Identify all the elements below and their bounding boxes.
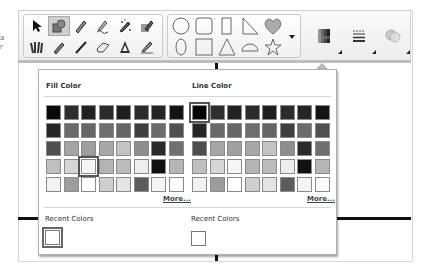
marker-pen-tool[interactable] <box>136 37 158 57</box>
fill-color-swatch[interactable] <box>46 177 61 192</box>
fill-color-swatch[interactable] <box>169 159 184 174</box>
fill-color-swatch[interactable] <box>46 159 61 174</box>
line-color-swatch[interactable] <box>245 159 260 174</box>
line-color-swatch[interactable] <box>315 105 330 120</box>
fill-color-swatch[interactable] <box>116 123 131 138</box>
rounded-square-shape[interactable] <box>193 16 215 36</box>
select-arrow-tool[interactable] <box>26 16 48 36</box>
fill-color-swatch[interactable] <box>99 159 114 174</box>
line-color-swatch[interactable] <box>315 123 330 138</box>
fill-color-swatch[interactable] <box>99 105 114 120</box>
eraser-tool[interactable] <box>92 37 114 57</box>
shapes-more-button[interactable] <box>286 31 298 43</box>
triangle-shape[interactable] <box>216 37 238 57</box>
line-color-swatch[interactable] <box>262 141 277 156</box>
line-color-swatch[interactable] <box>280 105 295 120</box>
line-color-swatch[interactable] <box>192 177 207 192</box>
right-triangle-shape[interactable] <box>239 16 261 36</box>
fill-color-swatch[interactable] <box>64 123 79 138</box>
fill-color-swatch[interactable] <box>169 141 184 156</box>
fill-color-swatch[interactable] <box>134 177 149 192</box>
fill-color-swatch[interactable] <box>64 105 79 120</box>
pencil-tool[interactable] <box>48 37 70 57</box>
circle-shape[interactable] <box>170 16 192 36</box>
fill-color-swatch[interactable] <box>116 159 131 174</box>
line-color-swatch[interactable] <box>245 141 260 156</box>
fill-color-swatch[interactable] <box>99 123 114 138</box>
highlight-pen-tool[interactable] <box>136 16 158 36</box>
fill-color-swatch[interactable] <box>151 123 166 138</box>
fill-color-swatch[interactable] <box>169 105 184 120</box>
fill-color-swatch[interactable] <box>46 123 61 138</box>
line-color-swatch[interactable] <box>262 177 277 192</box>
fill-color-swatch[interactable] <box>116 105 131 120</box>
fill-color-swatch[interactable] <box>46 105 61 120</box>
fill-shape-tool[interactable] <box>48 16 70 36</box>
line-color-swatch[interactable] <box>227 123 242 138</box>
fill-color-swatch[interactable] <box>64 159 79 174</box>
recent-fill-swatch[interactable] <box>45 230 60 245</box>
square-shape[interactable] <box>193 37 215 57</box>
fill-color-swatch[interactable] <box>169 123 184 138</box>
line-color-swatch[interactable] <box>227 141 242 156</box>
line-color-swatch[interactable] <box>280 141 295 156</box>
line-color-swatch[interactable] <box>210 105 225 120</box>
line-color-swatch[interactable] <box>315 177 330 192</box>
line-color-swatch[interactable] <box>245 123 260 138</box>
half-circle-shape[interactable] <box>239 37 261 57</box>
fill-color-swatch[interactable] <box>151 141 166 156</box>
fill-color-swatch[interactable] <box>134 105 149 120</box>
fill-color-swatch[interactable] <box>134 159 149 174</box>
fill-color-swatch[interactable] <box>99 177 114 192</box>
line-color-swatch[interactable] <box>297 141 312 156</box>
fill-color-swatch[interactable] <box>99 141 114 156</box>
line-color-swatch[interactable] <box>245 105 260 120</box>
fill-color-swatch[interactable] <box>116 141 131 156</box>
heart-shape[interactable] <box>262 16 284 36</box>
line-color-swatch[interactable] <box>192 105 207 120</box>
fill-color-swatch[interactable] <box>64 177 79 192</box>
line-color-swatch[interactable] <box>227 159 242 174</box>
fill-color-swatch[interactable] <box>81 177 96 192</box>
line-color-swatch[interactable] <box>210 177 225 192</box>
line-color-swatch[interactable] <box>210 123 225 138</box>
fill-color-swatch[interactable] <box>151 159 166 174</box>
fill-color-swatch[interactable] <box>134 123 149 138</box>
line-color-swatch[interactable] <box>262 123 277 138</box>
tall-rectangle-shape[interactable] <box>216 16 238 36</box>
line-color-swatch[interactable] <box>210 159 225 174</box>
line-color-swatch[interactable] <box>192 159 207 174</box>
line-color-swatch[interactable] <box>192 123 207 138</box>
fill-color-swatch[interactable] <box>134 141 149 156</box>
fill-color-swatch[interactable] <box>81 105 96 120</box>
line-color-swatch[interactable] <box>280 177 295 192</box>
star-shape[interactable] <box>262 37 284 57</box>
fill-more-link[interactable]: More... <box>163 195 191 203</box>
line-color-swatch[interactable] <box>227 105 242 120</box>
fill-color-swatch[interactable] <box>64 141 79 156</box>
recent-line-swatch[interactable] <box>191 231 206 246</box>
line-more-link[interactable]: More... <box>307 195 335 203</box>
canvas-line[interactable] <box>18 217 40 220</box>
fill-color-swatch[interactable] <box>116 177 131 192</box>
line-color-swatch[interactable] <box>297 105 312 120</box>
fill-color-swatch[interactable] <box>151 105 166 120</box>
line-color-swatch[interactable] <box>280 159 295 174</box>
text-tool[interactable] <box>114 37 136 57</box>
fill-color-swatch[interactable] <box>81 123 96 138</box>
fill-color-swatch[interactable] <box>81 141 96 156</box>
canvas-line[interactable] <box>334 217 411 220</box>
line-color-swatch[interactable] <box>315 159 330 174</box>
line-color-swatch[interactable] <box>245 177 260 192</box>
line-color-swatch[interactable] <box>297 159 312 174</box>
handwriting-pen-tool[interactable] <box>92 16 114 36</box>
fill-color-swatch[interactable] <box>81 159 96 174</box>
fill-color-swatch[interactable] <box>169 177 184 192</box>
line-color-swatch[interactable] <box>262 105 277 120</box>
line-tool[interactable] <box>70 37 92 57</box>
line-color-swatch[interactable] <box>227 177 242 192</box>
fill-color-swatch[interactable] <box>46 141 61 156</box>
pen-set-tool[interactable] <box>26 37 48 57</box>
line-color-swatch[interactable] <box>210 141 225 156</box>
line-color-swatch[interactable] <box>297 177 312 192</box>
